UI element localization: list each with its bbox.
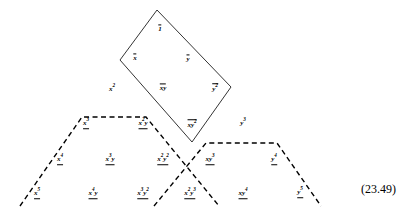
- monomial-text: y5: [297, 188, 303, 198]
- monomial-t-x2: x2: [109, 85, 115, 92]
- monomial-t-x2y3: x2y3: [184, 189, 195, 199]
- monomial-t-y4: y4: [271, 155, 277, 165]
- monomial-text: xy3: [206, 155, 215, 165]
- monomial-t-y3: y3: [240, 119, 246, 126]
- monomial-text: y2: [212, 83, 218, 93]
- monomial-text: x4: [57, 155, 63, 165]
- monomial-t-y-bar: y: [186, 54, 189, 63]
- monomial-t-x3y2: x3y2: [137, 189, 148, 199]
- monomial-t-x3y: x3y: [106, 155, 115, 165]
- monomial-text: x2: [109, 85, 115, 92]
- monomial-t-x4: x4: [57, 155, 63, 165]
- rhombus-outline: [120, 10, 231, 142]
- monomial-text: xy4: [239, 189, 248, 199]
- equation-number: (23.49): [361, 182, 396, 197]
- monomial-t-x2y2: x2y2: [157, 155, 168, 165]
- monomial-t-xy2-bar: xy2: [188, 119, 197, 129]
- monomial-t-x-bar: x: [133, 53, 136, 62]
- monomial-t-x5: x5: [34, 189, 40, 199]
- monomial-text: y4: [271, 155, 277, 165]
- monomial-text: 1: [158, 24, 161, 33]
- monomial-text: x5: [34, 189, 40, 199]
- monomial-t-1-bar: 1: [158, 24, 161, 33]
- monomial-t-xy-bar: xy: [160, 83, 166, 92]
- monomial-text: x: [133, 53, 136, 62]
- monomial-text: y3: [240, 119, 246, 126]
- monomial-t-y2-bar: y2: [212, 83, 218, 93]
- figure-page: 1xyx2xyy2x3x2yxy2y3x4x3yx2y2xy3y4x5x4yx3…: [0, 0, 401, 212]
- figure-line-art: [0, 0, 401, 212]
- monomial-text: x2y: [139, 119, 148, 129]
- monomial-text: xy: [160, 83, 166, 92]
- monomial-text: x3y2: [137, 189, 148, 199]
- monomial-t-x2y: x2y: [139, 119, 148, 129]
- monomial-text: x2y2: [157, 155, 168, 165]
- monomial-text: x4y: [89, 189, 98, 199]
- monomial-text: x2y3: [184, 189, 195, 199]
- monomial-text: xy2: [188, 119, 197, 129]
- monomial-text: x3y: [106, 155, 115, 165]
- monomial-t-xy3: xy3: [206, 155, 215, 165]
- monomial-t-x4y: x4y: [89, 189, 98, 199]
- monomial-t-xy4: xy4: [239, 189, 248, 199]
- monomial-text: x3: [83, 119, 89, 129]
- monomial-t-y5: y5: [297, 188, 303, 198]
- right-trapezoid-outline: [154, 143, 321, 206]
- monomial-text: y: [186, 54, 189, 63]
- monomial-t-x3: x3: [83, 119, 89, 129]
